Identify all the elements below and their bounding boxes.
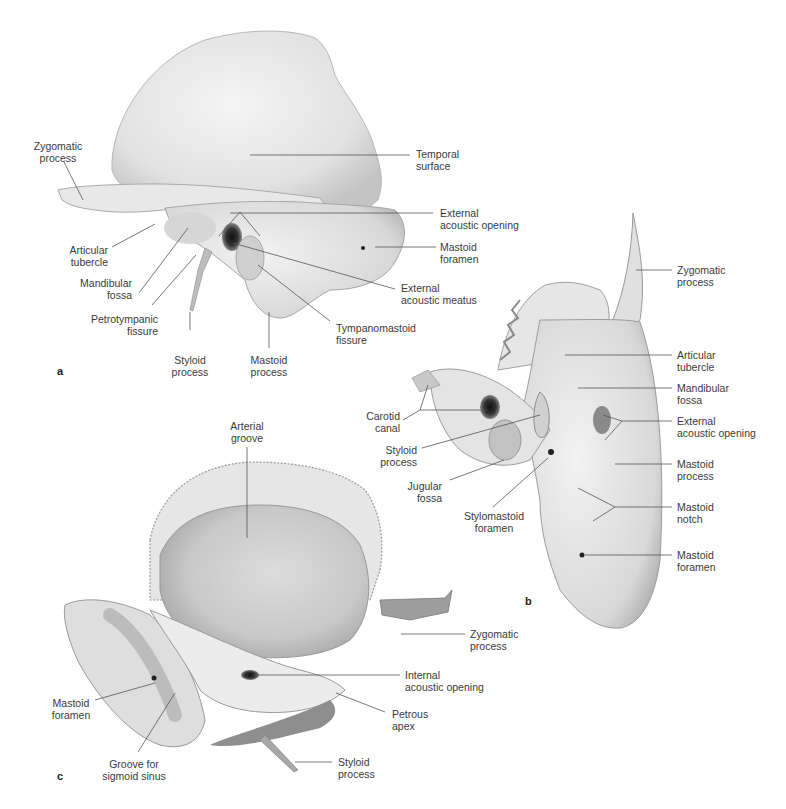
label-c-petrous-apex: Petrous apex xyxy=(392,708,428,732)
label-b-articular-tubercle: Articular tubercle xyxy=(677,349,716,373)
label-a-styloid-process: Styloid process xyxy=(165,354,215,378)
label-b-zygomatic-process: Zygomatic process xyxy=(677,264,725,288)
label-a-zygomatic-process: Zygomatic process xyxy=(28,140,88,164)
label-c-internal-acoustic-opening: Internal acoustic opening xyxy=(405,669,484,693)
label-a-mandibular-fossa: Mandibular fossa xyxy=(60,277,132,301)
label-c-styloid-process: Styloid process xyxy=(338,756,375,780)
label-a-tympanomastoid-fissure: Tympanomastoid fissure xyxy=(336,322,416,346)
panel-b-bone xyxy=(412,213,662,628)
label-c-arterial-groove: Arterial groove xyxy=(217,420,277,444)
panel-label-c: c xyxy=(57,770,63,782)
label-a-external-acoustic-opening: External acoustic opening xyxy=(440,207,519,231)
label-b-jugular-fossa: Jugular fossa xyxy=(380,480,442,504)
label-b-stylomastoid-foramen: Stylomastoid foramen xyxy=(452,510,536,534)
label-a-mastoid-process: Mastoid process xyxy=(242,354,296,378)
panel-a-bone xyxy=(58,31,404,318)
panel-label-a: a xyxy=(57,365,63,377)
label-b-mastoid-foramen: Mastoid foramen xyxy=(677,549,716,573)
label-c-groove-for-sigmoid-sinus: Groove for sigmoid sinus xyxy=(100,758,168,782)
label-b-external-acoustic-opening: External acoustic opening xyxy=(677,415,756,439)
label-a-articular-tubercle: Articular tubercle xyxy=(40,244,108,268)
label-a-petrotympanic-fissure: Petrotympanic fissure xyxy=(60,313,158,337)
label-c-mastoid-foramen: Mastoid foramen xyxy=(48,697,94,721)
label-a-temporal-surface: Temporal surface xyxy=(416,148,459,172)
label-b-styloid-process: Styloid process xyxy=(355,444,417,468)
label-c-zygomatic-process: Zygomatic process xyxy=(470,628,518,652)
label-b-mastoid-process: Mastoid process xyxy=(677,458,714,482)
label-b-carotid-canal: Carotid canal xyxy=(340,410,400,434)
label-b-mandibular-fossa: Mandibular fossa xyxy=(677,382,729,406)
temporal-bone-illustration xyxy=(0,0,786,809)
label-a-external-acoustic-meatus: External acoustic meatus xyxy=(401,282,477,306)
label-b-mastoid-notch: Mastoid notch xyxy=(677,501,714,525)
label-a-mastoid-foramen: Mastoid foramen xyxy=(440,241,479,265)
panel-label-b: b xyxy=(525,595,532,607)
